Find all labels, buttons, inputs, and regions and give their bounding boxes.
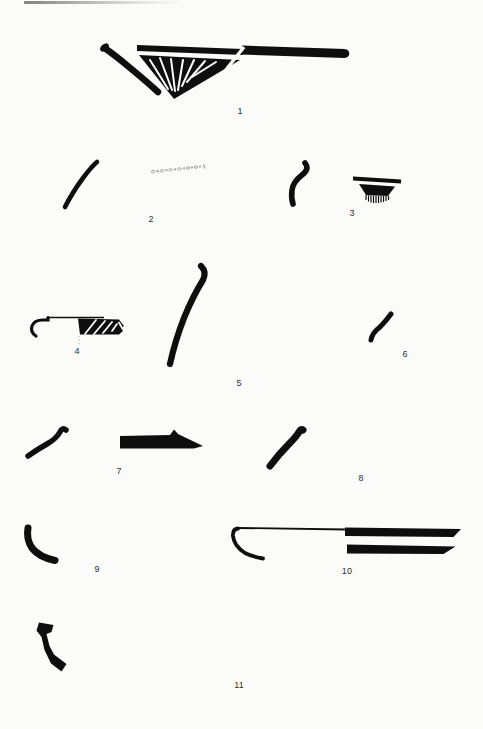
sherd-9-drawing <box>28 528 56 561</box>
item-7-label: 7 <box>116 466 121 476</box>
item-5-label: 5 <box>236 378 241 388</box>
sherd-10-drawing <box>233 528 461 559</box>
item-10-label: 10 <box>342 566 352 576</box>
sherd-6-drawing <box>371 314 391 340</box>
sherd-4-drawing <box>32 318 125 345</box>
item-3-label: 3 <box>349 208 354 218</box>
figure-plate: 1 2 3 4 5 6 7 8 9 10 11 <box>0 0 483 729</box>
item-6-label: 6 <box>402 349 407 359</box>
sherd-7-drawing <box>28 429 203 456</box>
sherd-5-drawing <box>170 266 205 364</box>
sherd-1-drawing <box>98 42 349 99</box>
item-2-label: 2 <box>148 214 153 224</box>
sherd-3-drawing <box>292 163 401 204</box>
item-8-label: 8 <box>358 473 363 483</box>
item-4-label: 4 <box>74 346 79 356</box>
stamped-band <box>151 165 205 173</box>
sherd-8-drawing <box>270 430 303 466</box>
item-11-label: 11 <box>234 680 244 690</box>
sherd-11-drawing <box>37 623 67 672</box>
item-9-label: 9 <box>94 564 99 574</box>
sherd-2-drawing <box>65 162 205 207</box>
item-1-label: 1 <box>237 106 242 116</box>
